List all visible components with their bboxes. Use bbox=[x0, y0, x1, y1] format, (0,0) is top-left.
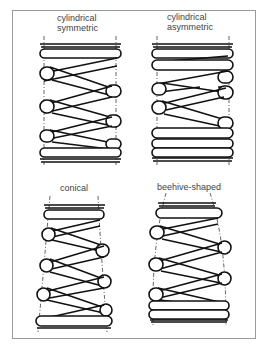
spring-cylindrical-symmetric bbox=[40, 36, 121, 165]
spring-beehive-shaped bbox=[149, 193, 231, 325]
spring-conical bbox=[36, 196, 112, 332]
spring-cylindrical-asymmetric bbox=[152, 36, 233, 165]
spring-diagrams bbox=[0, 0, 267, 350]
